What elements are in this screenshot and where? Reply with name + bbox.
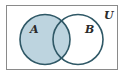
venn-diagram: A B U — [0, 0, 124, 74]
universe-label: U — [104, 9, 115, 22]
set-b-label: B — [84, 23, 94, 36]
set-a-label: A — [29, 23, 39, 36]
